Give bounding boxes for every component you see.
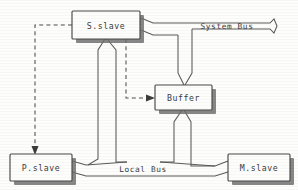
node-p-slave[interactable]: P.slave xyxy=(10,154,76,185)
arrow-right-icon xyxy=(146,95,155,102)
node-m-slave[interactable]: M.slave xyxy=(228,154,294,185)
block-diagram: S.slave Buffer P.slave M.slave System Bu… xyxy=(0,0,298,190)
diagram-canvas: S.slave Buffer P.slave M.slave System Bu… xyxy=(0,0,298,190)
m-slave-label: M.slave xyxy=(240,163,279,173)
p-slave-label: P.slave xyxy=(22,163,61,173)
connector-sslave-to-local-bus xyxy=(88,39,127,165)
connector-sslave-to-buffer-control xyxy=(126,39,155,102)
buffer-label: Buffer xyxy=(167,93,200,103)
local-bus-label: Local Bus xyxy=(119,165,167,174)
connector-buffer-to-local-bus xyxy=(160,110,215,166)
system-bus-label: System Bus xyxy=(201,22,254,31)
node-s-slave[interactable]: S.slave xyxy=(72,11,144,43)
connector-sslave-to-pslave-control xyxy=(32,25,73,155)
s-slave-label: S.slave xyxy=(87,21,126,31)
connector-system-bus-to-buffer xyxy=(178,29,192,85)
node-buffer[interactable]: Buffer xyxy=(155,85,216,114)
